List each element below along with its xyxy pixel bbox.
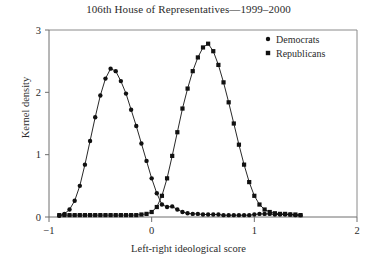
data-point-marker (165, 176, 169, 180)
data-point-marker (114, 69, 118, 73)
data-point-marker (206, 212, 210, 216)
data-point-marker (72, 199, 76, 203)
data-point-marker (170, 204, 174, 208)
data-point-marker (67, 213, 71, 217)
data-point-marker (221, 80, 225, 84)
data-point-marker (257, 212, 261, 216)
y-tick-label: 1 (36, 149, 41, 160)
data-point-marker (139, 141, 143, 145)
legend: DemocratsRepublicans (266, 34, 326, 59)
data-point-marker (226, 213, 230, 217)
data-point-marker (62, 213, 66, 217)
x-tick-label: 0 (149, 225, 154, 236)
data-point-marker (109, 213, 113, 217)
data-point-marker (155, 191, 159, 195)
data-point-marker (119, 79, 123, 83)
series-line (59, 44, 300, 215)
data-point-marker (221, 213, 225, 217)
data-point-marker (216, 63, 220, 67)
data-point-marker (129, 108, 133, 112)
data-point-marker (293, 212, 297, 216)
data-point-marker (155, 205, 159, 209)
data-point-marker (278, 212, 282, 216)
data-point-marker (67, 207, 71, 211)
data-series-republicans (57, 42, 302, 218)
data-point-marker (180, 210, 184, 214)
data-point-marker (201, 212, 205, 216)
data-point-marker (242, 213, 246, 217)
data-point-marker (98, 213, 102, 217)
data-point-marker (211, 49, 215, 53)
data-point-marker (232, 121, 236, 125)
data-point-marker (227, 100, 231, 104)
y-tick-label: 3 (36, 25, 41, 36)
legend-label-republicans: Republicans (276, 48, 326, 59)
x-axis-ticks: −1012 (43, 217, 359, 236)
data-point-marker (124, 213, 128, 217)
data-point-marker (237, 143, 241, 147)
data-point-marker (252, 194, 256, 198)
data-point-marker (211, 212, 215, 216)
data-point-marker (124, 91, 128, 95)
data-point-marker (201, 45, 205, 49)
x-axis-label: Left-right ideological score (0, 243, 377, 254)
data-point-marker (262, 212, 266, 216)
data-point-marker (180, 106, 184, 110)
data-point-marker (196, 212, 200, 216)
data-point-marker (83, 162, 87, 166)
data-point-marker (108, 66, 112, 70)
data-point-marker (88, 213, 92, 217)
data-point-marker (185, 211, 189, 215)
data-point-marker (263, 207, 267, 211)
data-point-marker (144, 212, 148, 216)
data-point-marker (78, 184, 82, 188)
data-point-marker (103, 213, 107, 217)
data-point-marker (165, 205, 169, 209)
data-point-marker (129, 213, 133, 217)
data-point-marker (103, 76, 107, 80)
kernel-density-plot: 0123−1012DemocratsRepublicans (0, 0, 377, 276)
data-point-marker (73, 213, 77, 217)
data-point-marker (288, 212, 292, 216)
y-axis-label: Kernel density (20, 38, 31, 178)
data-point-marker (83, 213, 87, 217)
data-point-marker (247, 213, 251, 217)
legend-marker-democrats (266, 37, 270, 41)
data-point-marker (88, 139, 92, 143)
data-point-marker (298, 213, 302, 217)
data-point-marker (57, 213, 61, 217)
data-point-marker (216, 212, 220, 216)
data-point-marker (144, 159, 148, 163)
data-point-marker (191, 212, 195, 216)
data-point-marker (191, 69, 195, 73)
data-point-marker (232, 213, 236, 217)
data-point-marker (160, 194, 164, 198)
data-point-marker (252, 212, 256, 216)
data-point-marker (242, 163, 246, 167)
data-point-marker (93, 115, 97, 119)
legend-marker-republicans (266, 51, 270, 55)
data-point-marker (139, 212, 143, 216)
data-point-marker (98, 93, 102, 97)
data-point-marker (114, 213, 118, 217)
figure-container: 106th House of Representatives—1999–2000… (0, 0, 377, 276)
data-point-marker (93, 213, 97, 217)
data-point-marker (247, 180, 251, 184)
data-point-marker (160, 202, 164, 206)
y-tick-label: 0 (36, 212, 41, 223)
data-point-marker (170, 154, 174, 158)
figure-caption (22, 268, 362, 276)
series-line (59, 69, 300, 216)
data-point-marker (119, 213, 123, 217)
data-series-democrats (57, 66, 303, 218)
data-point-marker (196, 55, 200, 59)
data-point-marker (134, 213, 138, 217)
data-point-marker (78, 213, 82, 217)
data-point-marker (283, 212, 287, 216)
data-point-marker (237, 213, 241, 217)
y-axis-ticks: 0123 (36, 25, 49, 223)
data-point-marker (134, 124, 138, 128)
data-point-marker (186, 86, 190, 90)
data-point-marker (175, 207, 179, 211)
x-tick-label: 2 (354, 225, 359, 236)
